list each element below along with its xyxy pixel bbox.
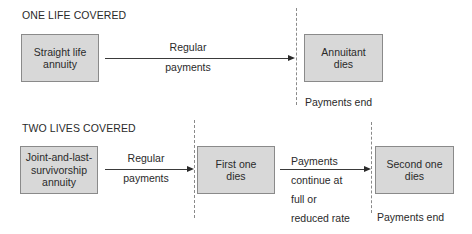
divider-dashed-line-2 <box>194 120 195 218</box>
box-line: dies <box>216 170 257 183</box>
regular-payments-arrow <box>105 58 288 59</box>
arrow1-label-top: Regular <box>120 152 172 164</box>
joint-and-last-survivorship-box: Joint-and-last- survivorship annuity <box>20 146 98 194</box>
second-one-dies-box: Second one dies <box>375 146 454 194</box>
first-one-dies-box: First one dies <box>197 146 275 194</box>
arrowhead-icon <box>288 55 295 61</box>
divider-dashed-line-3 <box>371 122 372 213</box>
two-lives-heading: TWO LIVES COVERED <box>22 122 136 134</box>
arrow2-label-line4: reduced rate <box>291 212 350 224</box>
regular-payments-arrow-2 <box>105 169 187 170</box>
box-line: Joint-and-last- <box>26 151 93 164</box>
arrow-label-top: Regular <box>162 41 214 53</box>
arrowhead-icon <box>364 166 371 172</box>
continue-payments-arrow <box>280 169 365 170</box>
box-line: dies <box>386 170 442 183</box>
box-line: Second one <box>386 158 442 171</box>
box-line: annuity <box>26 176 93 189</box>
box-line: annuity <box>34 58 87 71</box>
arrow1-label-bottom: payments <box>114 172 178 184</box>
arrow2-label-line2: continue at <box>291 174 342 186</box>
annuitant-dies-box: Annuitant dies <box>304 34 383 82</box>
one-life-heading: ONE LIFE COVERED <box>22 9 126 21</box>
payments-end-note-2: Payments end <box>377 211 444 223</box>
straight-life-annuity-box: Straight life annuity <box>21 34 99 82</box>
payments-end-note: Payments end <box>305 96 372 108</box>
arrow2-label-line1: Payments <box>291 155 338 167</box>
box-line: Annuitant <box>321 46 365 59</box>
divider-dashed-line <box>296 8 297 105</box>
box-line: dies <box>321 58 365 71</box>
box-line: Straight life <box>34 46 87 59</box>
box-line: survivorship <box>26 164 93 177</box>
box-line: First one <box>216 158 257 171</box>
arrow2-label-line3: full or <box>291 193 317 205</box>
arrowhead-icon <box>187 166 194 172</box>
arrow-label-bottom: payments <box>156 61 220 73</box>
